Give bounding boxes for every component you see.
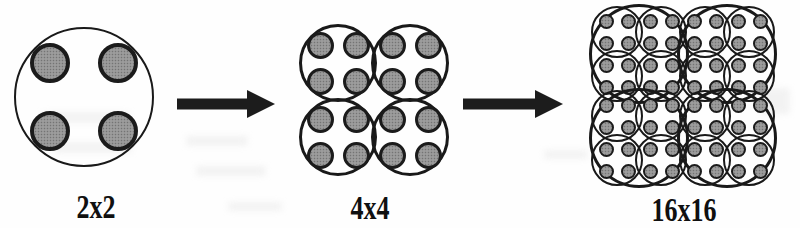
shaded-dot — [307, 32, 334, 59]
shaded-dot — [621, 36, 636, 51]
figure-label-16x16: 16x16 — [652, 194, 717, 228]
shaded-dot — [709, 164, 724, 179]
shaded-dot — [307, 106, 334, 133]
shaded-dot — [753, 164, 768, 179]
shaded-dot — [731, 164, 746, 179]
shaded-dot — [731, 36, 746, 51]
shaded-dot — [621, 142, 636, 157]
shaded-dot — [343, 32, 370, 59]
shaded-dot — [98, 111, 138, 151]
shaded-dot — [415, 106, 442, 133]
shaded-dot — [687, 120, 702, 135]
shaded-dot — [687, 164, 702, 179]
outline-circle — [723, 134, 775, 186]
shaded-dot — [709, 14, 724, 29]
shaded-dot — [30, 43, 70, 83]
shaded-dot — [687, 36, 702, 51]
shaded-dot — [599, 14, 614, 29]
shaded-dot — [687, 142, 702, 157]
shaded-dot — [687, 58, 702, 73]
shaded-dot — [665, 14, 680, 29]
shaded-dot — [621, 58, 636, 73]
shaded-dot — [665, 98, 680, 113]
shaded-dot — [753, 98, 768, 113]
shaded-dot — [379, 106, 406, 133]
shaded-dot — [643, 98, 658, 113]
shaded-dot — [379, 142, 406, 169]
figure-label-4x4: 4x4 — [351, 192, 390, 226]
figure-label-2x2: 2x2 — [77, 191, 116, 225]
shaded-dot — [753, 120, 768, 135]
arrow-head — [247, 90, 275, 118]
shaded-dot — [621, 98, 636, 113]
diagram: 2x2 4x4 16x16 — [0, 0, 800, 228]
shaded-dot — [731, 58, 746, 73]
shaded-dot — [599, 36, 614, 51]
shaded-dot — [709, 142, 724, 157]
shaded-dot — [415, 142, 442, 169]
shaded-dot — [599, 164, 614, 179]
shaded-dot — [415, 68, 442, 95]
shaded-dot — [731, 120, 746, 135]
shaded-dot — [307, 68, 334, 95]
shaded-dot — [687, 98, 702, 113]
right-arrow-icon — [463, 90, 563, 118]
shaded-dot — [731, 142, 746, 157]
shaded-dot — [731, 14, 746, 29]
shaded-dot — [599, 98, 614, 113]
shaded-dot — [343, 142, 370, 169]
shaded-dot — [599, 58, 614, 73]
shaded-dot — [621, 120, 636, 135]
shaded-dot — [643, 142, 658, 157]
shaded-dot — [643, 58, 658, 73]
shaded-dot — [30, 111, 70, 151]
shaded-dot — [415, 32, 442, 59]
shaded-dot — [731, 98, 746, 113]
shaded-dot — [709, 36, 724, 51]
shaded-dot — [709, 98, 724, 113]
arrow-shaft — [463, 99, 539, 110]
arrow-shaft — [177, 99, 249, 110]
shaded-dot — [643, 164, 658, 179]
shaded-dot — [643, 14, 658, 29]
arrow-head — [535, 90, 563, 118]
shaded-dot — [621, 14, 636, 29]
shaded-dot — [753, 142, 768, 157]
shaded-dot — [643, 120, 658, 135]
shaded-dot — [753, 58, 768, 73]
shaded-dot — [643, 36, 658, 51]
shaded-dot — [599, 142, 614, 157]
shaded-dot — [379, 32, 406, 59]
shaded-dot — [599, 120, 614, 135]
shaded-dot — [379, 68, 406, 95]
shaded-dot — [753, 14, 768, 29]
shaded-dot — [665, 164, 680, 179]
shaded-dot — [709, 120, 724, 135]
shaded-dot — [621, 164, 636, 179]
shaded-dot — [343, 68, 370, 95]
shaded-dot — [753, 36, 768, 51]
shaded-dot — [98, 43, 138, 83]
right-arrow-icon — [177, 90, 275, 118]
shaded-dot — [307, 142, 334, 169]
shaded-dot — [687, 14, 702, 29]
shaded-dot — [343, 106, 370, 133]
shaded-dot — [709, 58, 724, 73]
